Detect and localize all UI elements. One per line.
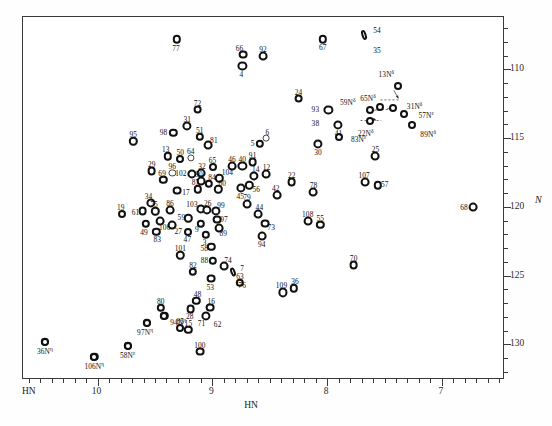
sidechain-peak: [376, 103, 384, 111]
x-axis-minor-tick: [178, 378, 179, 383]
y-axis-minor-tick: [503, 262, 508, 263]
peak-label: 76: [238, 281, 246, 290]
peak-label: 101: [175, 244, 186, 253]
x-axis-minor-tick: [132, 378, 133, 383]
x-axis-minor-tick: [247, 378, 248, 383]
x-axis-minor-tick: [29, 378, 30, 383]
peak-label: 65: [209, 156, 217, 165]
peak-label: 9: [195, 224, 199, 233]
y-axis-minor-tick: [503, 317, 508, 318]
spectrum-peak: [173, 186, 182, 195]
peak-label: 69: [158, 168, 166, 177]
y-axis-minor-tick: [503, 111, 508, 112]
y-axis-minor-tick: [503, 289, 508, 290]
x-axis-major-tick: [212, 378, 213, 386]
peak-label: 107: [358, 171, 369, 180]
peak-label: 84: [208, 172, 216, 181]
peak-label: 83: [153, 234, 161, 243]
y-axis-minor-tick: [503, 234, 508, 235]
x-axis-minor-tick: [488, 378, 489, 383]
peak-label: 25: [372, 145, 380, 154]
peak-label: 100: [194, 340, 205, 349]
x-axis-minor-tick: [121, 378, 122, 383]
peak-label: 89: [220, 228, 228, 237]
x-axis-minor-tick: [40, 378, 41, 383]
peak-label: 70: [350, 253, 358, 262]
x-axis-minor-tick: [52, 378, 53, 383]
sidechain-peak-label: 106Nη: [84, 361, 104, 371]
sidechain-peak-label: 57Nε: [418, 109, 433, 119]
y-axis-minor-tick: [503, 28, 508, 29]
x-axis-tick-label: 7: [439, 386, 444, 396]
peak-label: 51: [196, 126, 204, 135]
x-axis-tick-label: 10: [92, 386, 102, 396]
peak-label: 64: [187, 146, 195, 155]
x-axis-major-tick: [327, 378, 328, 386]
peak-label: 13: [162, 145, 170, 154]
peak-label: 109: [276, 281, 287, 290]
sidechain-peak-label: 59Nδ: [340, 96, 356, 106]
x-axis-major-tick: [98, 378, 99, 386]
peak-label: 77: [172, 44, 180, 53]
y-axis-minor-tick: [503, 372, 508, 373]
sidechain-peak-label: 97Nη: [137, 326, 153, 336]
peak-label: 60: [218, 179, 226, 188]
x-axis-minor-tick: [189, 378, 190, 383]
peak-label: 53: [207, 282, 215, 291]
sidechain-peak: [160, 312, 168, 320]
x-axis-minor-tick: [373, 378, 374, 383]
sidechain-peak-label: 89Nδ: [420, 128, 436, 138]
y-axis-minor-tick: [503, 193, 508, 194]
y-axis-minor-tick: [503, 303, 508, 304]
peak-label: 61: [132, 208, 140, 217]
peak-label: 27: [175, 227, 183, 236]
x-axis-minor-tick: [419, 378, 420, 383]
y-axis-minor-tick: [503, 166, 508, 167]
peak-label: 91: [249, 150, 257, 159]
peak-label: 58: [201, 244, 209, 253]
peak-label: 54: [373, 26, 381, 35]
peak-label: 99: [217, 201, 225, 210]
x-axis-minor-tick: [316, 378, 317, 383]
peak-label: 49: [140, 227, 148, 236]
peak-label: 108: [302, 209, 313, 218]
peak-label: 22: [288, 171, 296, 180]
peak-label: 16: [207, 296, 215, 305]
x-axis-minor-tick: [281, 378, 282, 383]
y-axis-tick-label: 120: [510, 201, 524, 211]
peak-label: 14: [252, 164, 260, 173]
x-axis-minor-tick: [453, 378, 454, 383]
x-axis-minor-tick: [86, 378, 87, 383]
x-axis-title: HN: [244, 400, 258, 410]
peak-label: 81: [210, 136, 218, 145]
peak-label: 47: [184, 234, 192, 243]
peak-label: 74: [224, 256, 232, 265]
peak-label: 72: [194, 98, 202, 107]
peak-label: 57: [381, 180, 389, 189]
peak-label: 71: [198, 318, 206, 327]
peak-label: 36: [291, 277, 299, 286]
peak-label: 73: [267, 222, 275, 231]
y-axis-tick-label: 110: [510, 63, 524, 73]
y-axis-minor-tick: [503, 221, 508, 222]
peak-label: 98: [160, 127, 168, 136]
x-axis-minor-tick: [293, 378, 294, 383]
peak-label: 55: [317, 214, 325, 223]
peak-label: 24: [295, 87, 303, 96]
peak-label: 5: [251, 138, 255, 147]
y-axis-minor-tick: [503, 331, 508, 332]
x-axis-tick-label: 9: [209, 386, 214, 396]
peak-label: 42: [272, 183, 280, 192]
peak-label: 97: [220, 214, 228, 223]
sidechain-peak-label: 36Nη: [37, 346, 53, 356]
y-axis-minor-tick: [503, 83, 508, 84]
peak-label: 82: [189, 260, 197, 269]
peak-label: 19: [117, 203, 125, 212]
peak-label: 46: [228, 154, 236, 163]
y-axis-minor-tick: [503, 152, 508, 153]
peak-label: 30: [314, 147, 322, 156]
sidechain-peak-label: 83Nε: [351, 134, 366, 144]
x-axis-minor-tick: [63, 378, 64, 383]
peak-label: 31: [183, 115, 191, 124]
sidechain-peak: [366, 117, 374, 125]
